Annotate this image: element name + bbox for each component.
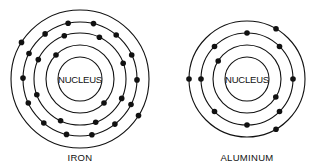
iron-atom: NUCLEUS [11, 10, 149, 148]
electron-dot [128, 102, 134, 108]
electron-dot [244, 122, 250, 128]
electron-dot [273, 26, 279, 32]
electron-dot [273, 94, 279, 100]
electron-dot [198, 76, 204, 82]
electron-dot [212, 44, 218, 50]
aluminum-atom: NUCLEUS [186, 21, 305, 137]
electron-dot [65, 20, 71, 26]
electron-dot [112, 121, 118, 127]
electron-dot [186, 76, 192, 82]
electron-dot [101, 100, 107, 106]
atom-diagram-canvas: NUCLEUS NUCLEUS IRON ALUMINUM [0, 0, 317, 167]
electron-dot [129, 52, 135, 58]
electron-dot [277, 109, 283, 115]
iron-label: IRON [68, 152, 93, 163]
nucleus-label: NUCLEUS [58, 74, 102, 85]
electron-dot [119, 96, 125, 102]
electron-dot [41, 120, 47, 126]
electron-dot [215, 58, 221, 64]
electron-dot [244, 30, 250, 36]
electron-dot [26, 51, 32, 57]
electron-dot [91, 21, 97, 27]
electron-dot [136, 113, 142, 119]
electron-dot [58, 118, 64, 124]
electron-dot [290, 76, 296, 82]
electron-dot [93, 119, 99, 125]
electron-dot [120, 61, 126, 67]
electron-dot [26, 100, 32, 106]
electron-dot [36, 57, 42, 63]
nucleus-label: NUCLEUS [225, 74, 269, 85]
electron-dot [273, 126, 279, 132]
electron-dot [19, 40, 25, 46]
electron-dot [20, 75, 26, 81]
electron-dot [89, 132, 95, 138]
electron-dot [97, 35, 103, 41]
electron-dot [53, 52, 59, 58]
electron-dot [212, 109, 218, 115]
electron-dot [62, 33, 68, 39]
electron-dot [277, 44, 283, 50]
electron-dot [64, 132, 70, 138]
aluminum-label: ALUMINUM [220, 152, 273, 163]
electron-dot [113, 32, 119, 38]
electron-dot [34, 92, 40, 98]
electron-dot [134, 77, 140, 83]
electron-dot [42, 31, 48, 37]
